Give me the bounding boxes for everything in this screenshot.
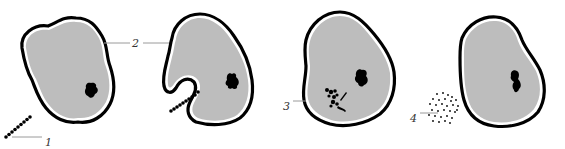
label-4: 4 bbox=[409, 112, 417, 125]
cytoplasm bbox=[464, 21, 540, 123]
particle-chain-icon bbox=[4, 115, 32, 139]
cytoplasm bbox=[307, 16, 390, 122]
diagram-svg: 1 2 bbox=[0, 0, 565, 149]
released-debris-icon bbox=[428, 92, 459, 124]
panel-3-cell: 3 bbox=[283, 12, 394, 126]
diagram-canvas: 1 2 bbox=[0, 0, 565, 149]
label-1: 1 bbox=[45, 136, 52, 149]
panel-4-cell: 4 bbox=[409, 17, 544, 127]
panel-2-cell bbox=[163, 14, 252, 125]
cytoplasm bbox=[26, 22, 109, 119]
label-2: 2 bbox=[131, 37, 139, 50]
label-3: 3 bbox=[283, 100, 290, 113]
panel-1-cell: 1 bbox=[4, 18, 114, 149]
